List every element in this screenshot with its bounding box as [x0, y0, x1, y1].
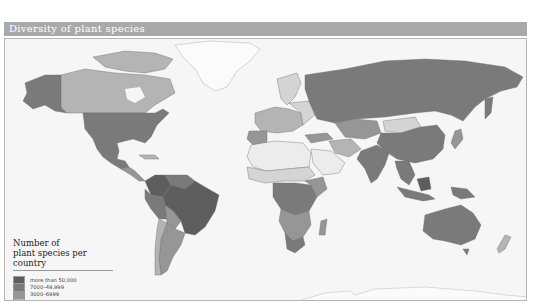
region-alaska: [23, 75, 67, 113]
legend-swatch: [13, 291, 25, 298]
region-japan: [451, 129, 463, 149]
map-title: Diversity of plant species: [4, 22, 527, 36]
region-new-guinea: [451, 187, 475, 199]
region-turkey: [305, 133, 333, 143]
legend-item: 2000–2999: [13, 298, 113, 301]
legend-item: 3000–6999: [13, 291, 113, 298]
legend-label: 7000–49,999: [30, 284, 64, 290]
region-central-america: [121, 167, 145, 181]
legend-items: more than 50,000 7000–49,999 3000–6999 2…: [13, 276, 113, 301]
region-india: [357, 145, 389, 183]
region-greenland: [175, 41, 260, 91]
region-canada-islands: [93, 51, 173, 73]
region-southeast-asia: [395, 161, 415, 185]
region-antarctica: [295, 287, 527, 301]
legend-label: more than 50,000: [30, 277, 77, 283]
legend-divider: [13, 270, 113, 271]
region-western-europe: [255, 107, 303, 133]
map-legend: Number of plant species per country more…: [13, 238, 113, 301]
region-tasmania: [463, 249, 469, 255]
region-north-africa: [247, 141, 311, 171]
region-central-africa: [273, 183, 317, 215]
region-sahel: [247, 167, 315, 183]
legend-title-line1: Number of: [13, 238, 113, 248]
region-madagascar: [319, 219, 327, 235]
legend-label: 2000–2999: [30, 299, 59, 301]
region-canada: [61, 69, 175, 113]
region-new-zealand: [497, 235, 511, 253]
region-kazakhstan: [335, 119, 381, 139]
legend-swatch: [13, 298, 25, 301]
legend-item: 7000–49,999: [13, 283, 113, 290]
legend-title-line2: plant species per country: [13, 248, 113, 268]
region-scandinavia: [277, 73, 301, 105]
legend-swatch: [13, 283, 25, 290]
legend-swatch: [13, 276, 25, 283]
region-australia: [423, 205, 481, 245]
legend-label: 3000–6999: [30, 291, 59, 297]
region-borneo: [417, 177, 431, 191]
world-map: Number of plant species per country more…: [4, 38, 527, 301]
legend-item: more than 50,000: [13, 276, 113, 283]
region-caribbean: [139, 155, 159, 159]
region-kamchatka: [485, 97, 493, 119]
